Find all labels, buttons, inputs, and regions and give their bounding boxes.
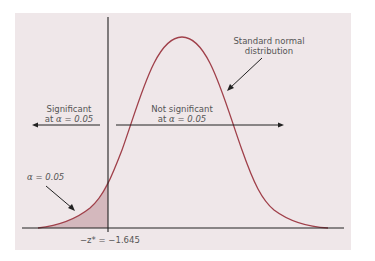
significant-label-line2: at α = 0.05 — [38, 114, 100, 124]
normal-distribution-figure — [0, 0, 375, 261]
not-significant-label-line1: Not significant — [146, 104, 218, 114]
normal-curve — [38, 37, 328, 228]
rejection-region-shading — [38, 180, 108, 228]
curve-label: Standard normal distribution — [232, 36, 306, 56]
tail-label-pointer — [46, 186, 72, 208]
not-significant-label-line2: at α = 0.05 — [146, 114, 218, 124]
curve-label-line1: Standard normal — [232, 36, 306, 46]
tail-alpha-label: α = 0.05 — [27, 172, 64, 182]
not-significant-label: Not significant at α = 0.05 — [146, 104, 218, 124]
right-arrowhead-icon — [278, 123, 284, 128]
significant-label-line1: Significant — [38, 104, 100, 114]
significant-label: Significant at α = 0.05 — [38, 104, 100, 124]
curve-label-line2: distribution — [232, 46, 306, 56]
critical-value-label: −z* = −1.645 — [80, 235, 140, 245]
curve-label-pointer — [230, 58, 262, 88]
